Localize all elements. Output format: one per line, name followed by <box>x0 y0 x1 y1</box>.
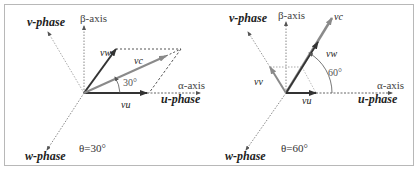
panel-theta-60: v-phase β-axis α-axis u-phase w-phase θ=… <box>225 9 404 163</box>
vu-label: vu <box>121 99 130 110</box>
v-phase-label: v-phase <box>27 15 66 29</box>
vc-label: vc <box>134 55 143 66</box>
angle-label: 30° <box>123 77 137 88</box>
vc-extension <box>166 49 181 56</box>
vector-vv <box>270 67 286 93</box>
projection-line-2 <box>302 67 316 93</box>
theta-label: θ=30° <box>79 142 106 154</box>
u-phase-label: u-phase <box>161 92 201 106</box>
angle-label: 60° <box>328 67 342 78</box>
vector-vw <box>286 42 318 93</box>
w-phase-label: w-phase <box>25 149 66 163</box>
theta-label: θ=60° <box>281 142 308 154</box>
alpha-axis-label: α-axis <box>377 79 404 91</box>
panel-theta-30: v-phase β-axis α-axis u-phase w-phase θ=… <box>25 12 205 163</box>
v-phase-axis-line <box>48 32 84 93</box>
vc-label: vc <box>334 11 343 22</box>
w-phase-label: w-phase <box>225 149 266 163</box>
beta-axis-label: β-axis <box>80 12 107 24</box>
vv-label: vv <box>254 76 263 87</box>
vector-diagram: v-phase β-axis α-axis u-phase w-phase θ=… <box>0 0 418 180</box>
vw-label: vw <box>326 48 337 59</box>
vu-label: vu <box>302 95 311 106</box>
v-phase-label: v-phase <box>229 11 268 25</box>
vw-label: vw <box>100 47 111 58</box>
u-phase-label: u-phase <box>358 92 398 106</box>
alpha-axis-label: α-axis <box>178 79 205 91</box>
v-phase-axis-line <box>248 32 270 67</box>
w-phase-axis-line <box>246 93 286 150</box>
beta-axis-label: β-axis <box>278 9 305 21</box>
